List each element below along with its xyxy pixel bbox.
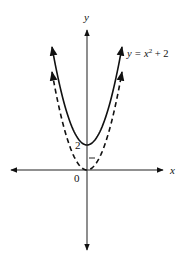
y-tick-label-2: 2 <box>75 139 81 151</box>
origin-label: 0 <box>74 172 80 184</box>
x-axis-label: x <box>169 164 175 176</box>
y-axis-label: y <box>83 11 89 23</box>
curve-annotation: y = x2 + 2 <box>126 47 169 59</box>
parabola-graph: y x 0 2 y = x2 + 2 <box>0 0 186 260</box>
